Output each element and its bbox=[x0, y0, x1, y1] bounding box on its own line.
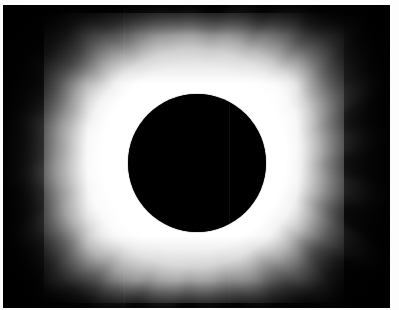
image-alt-text: Total solar eclipse: black lunar disk su… bbox=[0, 0, 1, 1]
eclipse-photo-page: Total solar eclipse: black lunar disk su… bbox=[0, 0, 399, 310]
eclipse-photograph bbox=[3, 5, 390, 308]
lunar-occulting-disk bbox=[128, 94, 266, 232]
